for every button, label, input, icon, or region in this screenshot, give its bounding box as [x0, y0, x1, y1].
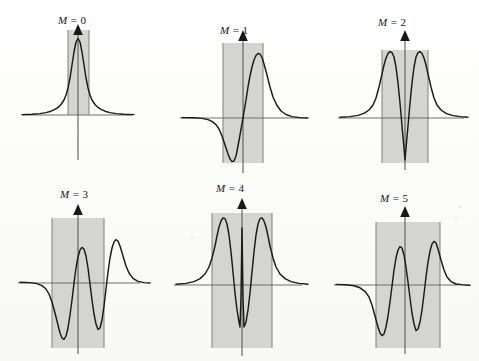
panel-m4-label-eq: =	[229, 182, 236, 194]
panel-m1-label-var: M	[220, 24, 230, 36]
panel-m0-label-eq: =	[71, 14, 78, 26]
panel-m3-plot	[10, 186, 160, 358]
scan-speck	[191, 236, 193, 238]
panel-m2-plot	[330, 8, 479, 178]
panel-m0-label-var: M	[58, 14, 68, 26]
panel-m2-label-val: 2	[401, 16, 407, 28]
panel-m5-plot	[330, 190, 479, 358]
panel-m3-label-val: 3	[83, 188, 89, 200]
scan-speck	[455, 218, 457, 220]
figure-root: M = 0 M = 1	[0, 0, 479, 361]
panel-m3-label-var: M	[60, 188, 70, 200]
panel-m5-label-val: 5	[403, 192, 409, 204]
panel-m3: M = 3	[10, 186, 160, 358]
panel-m4: M = 4	[168, 180, 318, 358]
panel-m5: M = 5	[330, 190, 479, 358]
panel-m3-label: M = 3	[60, 188, 88, 200]
panel-m5-y-axis-arrow-icon	[400, 206, 410, 217]
panel-m4-y-axis-arrow-icon	[237, 198, 247, 209]
panel-m0-plot	[10, 8, 160, 178]
panel-m3-y-axis-arrow-icon	[73, 204, 83, 215]
scan-speck	[239, 184, 241, 186]
panel-m1-label: M = 1	[220, 24, 248, 36]
panel-m5-label: M = 5	[380, 192, 408, 204]
panel-m2-label-var: M	[378, 16, 388, 28]
scan-speck	[459, 206, 461, 208]
panel-m2-label-eq: =	[391, 16, 398, 28]
panel-m1: M = 1	[168, 8, 318, 178]
panel-m2: M = 2	[330, 8, 479, 178]
panel-m4-plot	[168, 180, 318, 358]
panel-m1-label-eq: =	[233, 24, 240, 36]
panel-m4-label-var: M	[216, 182, 226, 194]
panel-m0: M = 0	[10, 8, 160, 178]
panel-m2-y-axis-arrow-icon	[400, 30, 410, 41]
panel-m2-label: M = 2	[378, 16, 406, 28]
panel-m0-label: M = 0	[58, 14, 86, 26]
panel-m5-label-var: M	[380, 192, 390, 204]
panel-m1-label-val: 1	[243, 24, 249, 36]
panel-m3-label-eq: =	[73, 188, 80, 200]
panel-m5-label-eq: =	[393, 192, 400, 204]
panel-m0-label-val: 0	[81, 14, 87, 26]
